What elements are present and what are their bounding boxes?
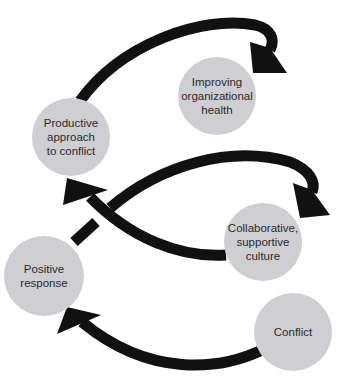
node-label: Positive response (20, 262, 67, 290)
arrow-positive-to-collaborative-b (110, 156, 313, 208)
node-productive-approach: Productive approach to conflict (32, 98, 110, 176)
node-label: Conflict (274, 325, 312, 339)
node-positive-response: Positive response (4, 236, 84, 316)
node-improving-organizational-health: Improving organizational health (178, 57, 256, 135)
node-collaborative-culture: Collaborative, supportive culture (224, 203, 302, 281)
node-label: Improving organizational health (181, 75, 253, 117)
arrow-conflict-to-positive (82, 322, 262, 365)
node-label: Collaborative, supportive culture (228, 221, 298, 263)
node-label: Productive approach to conflict (44, 116, 98, 158)
arrow-positive-to-collaborative-a (74, 222, 96, 242)
node-conflict: Conflict (254, 293, 332, 371)
